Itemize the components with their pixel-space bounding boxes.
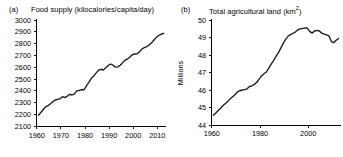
y-tick-a-5: 2600 [15,63,31,72]
panel-b-x-ticklabels: 1960 1980 2000 [204,129,317,138]
y-tick-b-3: 47 [198,68,206,77]
y-tick-a-9: 3000 [15,16,31,25]
x-tick-b-2: 2000 [300,129,316,138]
y-tick-b-4: 48 [198,51,206,60]
panel-a-plot: 3000 2900 2800 2700 2600 2500 2400 2300 … [0,0,172,157]
x-tick-a-1: 1970 [53,131,69,140]
y-tick-a-0: 2100 [15,122,31,131]
y-tick-a-8: 2900 [15,27,31,36]
y-tick-b-5: 49 [198,33,206,42]
x-tick-b-1: 1980 [252,129,268,138]
panel-a-axis-spines [36,19,166,126]
x-tick-b-0: 1960 [204,129,220,138]
panel-a-x-ticklabels: 1960 1970 1980 1990 2000 2010 [29,131,166,140]
x-tick-a-5: 2010 [149,131,165,140]
x-tick-a-0: 1960 [29,131,45,140]
y-tick-b-6: 50 [198,16,206,25]
panel-b-axis-spines [211,19,341,125]
y-tick-a-3: 2400 [15,86,31,95]
x-tick-a-3: 1990 [101,131,117,140]
figure-root: (a) Food supply (kilocalories/capita/day… [0,0,343,157]
y-tick-a-4: 2500 [15,75,31,84]
y-tick-b-0: 44 [198,121,206,130]
y-tick-a-7: 2800 [15,39,31,48]
y-tick-a-2: 2300 [15,98,31,107]
panel-b: (b) Total agricultural land (km2) Millio… [171,0,343,157]
panel-b-y-ticklabels: 50 49 48 47 46 45 44 [198,16,206,130]
y-tick-b-2: 46 [198,86,206,95]
y-tick-a-1: 2200 [15,110,31,119]
y-tick-b-1: 45 [198,103,206,112]
panel-a-data-line [38,33,163,115]
panel-b-data-line [213,28,338,115]
panel-b-y-axis-label: Millions [176,60,185,85]
panel-a-y-ticklabels: 3000 2900 2800 2700 2600 2500 2400 2300 … [15,16,31,131]
x-tick-a-2: 1980 [77,131,93,140]
y-tick-a-6: 2700 [15,51,31,60]
panel-b-plot: Millions 50 49 48 47 46 45 44 [171,0,343,157]
x-tick-a-4: 2000 [125,131,141,140]
panel-a: (a) Food supply (kilocalories/capita/day… [0,0,172,157]
